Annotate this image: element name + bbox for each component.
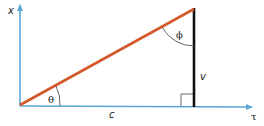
diagram-canvas: x τ θ ϕ v c	[0, 0, 264, 126]
hypotenuse	[20, 9, 194, 105]
c-label: c	[109, 109, 115, 120]
t-axis	[20, 106, 252, 107]
triangle-diagram: x τ θ ϕ v c	[0, 0, 264, 126]
x-axis-label: x	[7, 5, 14, 16]
theta-label: θ	[48, 94, 54, 105]
right-angle-marker	[181, 94, 194, 106]
phi-label: ϕ	[176, 29, 183, 40]
t-axis-label: τ	[251, 111, 257, 122]
theta-arc	[56, 86, 60, 106]
v-label: v	[200, 71, 207, 82]
